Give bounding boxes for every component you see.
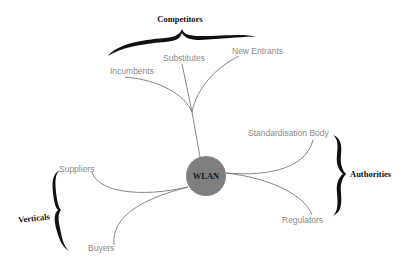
group-label-competitors: Competitors [157,14,203,24]
connector-regulators [226,173,312,215]
node-buyers: Buyers [88,243,114,253]
connector-buyers [114,187,188,245]
node-standardisation-body: Standardisation Body [248,128,330,138]
node-incumbents: Incumbents [110,66,154,76]
connector-new-entrants [192,56,239,112]
connector-incumbents [125,77,192,112]
group-label-authorities: Authorities [350,169,392,179]
center-node-label: WLAN [193,171,220,181]
connector-substitutes [182,64,192,112]
verticals-brace-icon [53,170,69,251]
group-label-verticals: Verticals [18,211,51,224]
authorities-brace-icon [333,135,346,216]
node-regulators: Regulators [282,215,323,225]
connector-competitors-trunk [192,112,200,157]
node-suppliers: Suppliers [59,164,94,174]
node-new-entrants: New Entrants [232,46,283,56]
node-substitutes: Substitutes [163,53,205,63]
wlan-stakeholder-diagram: WLAN Competitors Authorities Verticals I… [0,0,408,268]
connector-suppliers [92,172,188,192]
connector-standardisation-body [226,140,313,174]
